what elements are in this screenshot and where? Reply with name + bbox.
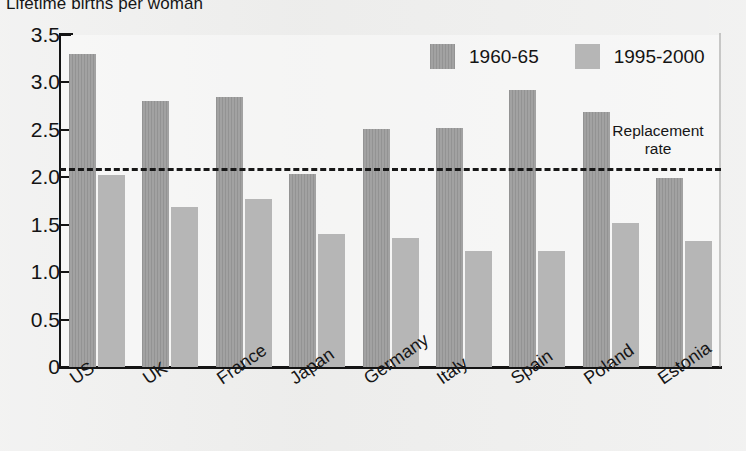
y-axis-tick-label: 3.0: [0, 71, 60, 92]
y-axis-tick-label: 3.5: [0, 24, 60, 45]
replacement-rate-line: [60, 168, 721, 171]
legend-label-1995-2000: 1995-2000: [614, 46, 705, 68]
legend-item-1995-2000: 1995-2000: [575, 44, 705, 69]
replacement-rate-label: Replacement rate: [598, 122, 718, 158]
bar-group: [69, 35, 125, 367]
y-axis-tick-label: 1.0: [0, 261, 60, 282]
y-axis-tick-label: 2.5: [0, 119, 60, 140]
bar-italy-1995-2000: [465, 251, 492, 367]
bar-estonia-1960-65: [656, 178, 683, 367]
bar-us-1995-2000: [98, 175, 125, 367]
bar-france-1960-65: [216, 97, 243, 367]
bar-group: [656, 35, 712, 367]
bar-group: [509, 35, 565, 367]
legend-label-1960-65: 1960-65: [469, 46, 539, 68]
y-axis-tick-label: 0: [0, 356, 60, 377]
y-axis-tick-label: 1.5: [0, 214, 60, 235]
bar-group: [363, 35, 419, 367]
chart-legend: 1960-65 1995-2000: [430, 44, 705, 69]
legend-item-1960-65: 1960-65: [430, 44, 539, 69]
chart-title: Lifetime births per woman: [6, 0, 203, 14]
bar-group: [583, 35, 639, 367]
replacement-rate-label-line1: Replacement: [598, 122, 718, 140]
legend-swatch-icon-1995-2000: [575, 44, 600, 69]
bar-group: [436, 35, 492, 367]
bar-japan-1960-65: [289, 174, 316, 367]
legend-swatch-icon-1960-65: [430, 44, 455, 69]
bar-us-1960-65: [69, 54, 96, 367]
bar-group: [289, 35, 345, 367]
bar-uk-1995-2000: [171, 207, 198, 367]
y-axis-tick-label: 0.5: [0, 309, 60, 330]
bar-group-container: [60, 35, 721, 367]
x-axis-labels: USUKFranceJapanGermanyItalySpainPolandEs…: [60, 372, 721, 451]
bar-italy-1960-65: [436, 128, 463, 367]
replacement-rate-label-line2: rate: [598, 140, 718, 158]
bar-group: [142, 35, 198, 367]
y-axis-tick-label: 2.0: [0, 166, 60, 187]
bar-germany-1960-65: [363, 129, 390, 367]
bar-uk-1960-65: [142, 101, 169, 367]
bar-spain-1960-65: [509, 90, 536, 367]
bar-group: [216, 35, 272, 367]
